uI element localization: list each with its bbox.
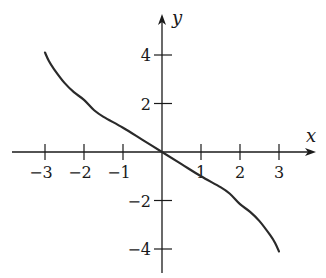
function-graph: −3−2−1123 42−2−4 x y	[0, 0, 326, 278]
x-tick-label: 2	[235, 163, 245, 182]
x-tick-label: −2	[68, 163, 92, 182]
x-tick-label: 3	[274, 163, 284, 182]
y-tick-label: 4	[141, 46, 151, 65]
y-tick-label: 2	[141, 95, 151, 114]
x-axis-label: x	[306, 125, 316, 146]
y-tick-label: −2	[127, 192, 151, 211]
y-axis-label: y	[171, 7, 183, 28]
y-tick-label: −4	[127, 240, 151, 259]
x-tick-label: −1	[107, 163, 131, 182]
x-tick-label: −3	[29, 163, 53, 182]
